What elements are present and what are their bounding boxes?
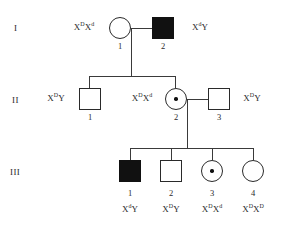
individual-iii-2-id: 2: [161, 188, 181, 198]
sibship-drop-ii-1: [89, 76, 90, 88]
pedigree-chart: I II III 1 2 XDXd XdY 1 2 3 XDY XDXd XDY…: [0, 0, 287, 227]
sibship-drop-iii-4: [253, 148, 254, 160]
individual-ii-1-genotype: XDY: [36, 93, 76, 103]
individual-iii-3-id: 3: [202, 188, 222, 198]
individual-iii-3-symbol[interactable]: [201, 160, 223, 182]
individual-iii-1-id: 1: [120, 188, 140, 198]
mating-line-gen2: [187, 99, 208, 100]
mating-line-gen1: [131, 28, 152, 29]
individual-i-1-symbol[interactable]: [109, 17, 131, 39]
sibship-drop-iii-2: [171, 148, 172, 160]
individual-ii-3-id: 3: [209, 112, 229, 122]
individual-ii-2-symbol[interactable]: [165, 88, 187, 110]
descent-line-gen2: [187, 99, 188, 148]
individual-i-2-symbol[interactable]: [152, 17, 174, 39]
descent-line-gen1: [131, 28, 132, 76]
sibship-bar-gen2: [89, 76, 175, 77]
individual-ii-3-symbol[interactable]: [208, 88, 230, 110]
individual-i-1-genotype: XDXd: [62, 22, 106, 32]
individual-iii-2-symbol[interactable]: [160, 160, 182, 182]
sibship-drop-ii-2: [175, 76, 176, 88]
generation-label-ii: II: [12, 95, 19, 105]
sibship-bar-gen3: [130, 148, 253, 149]
individual-iii-4-genotype: XDXD: [229, 204, 277, 214]
individual-iii-2-genotype: XDY: [149, 204, 193, 214]
individual-iii-4-symbol[interactable]: [242, 160, 264, 182]
individual-ii-1-id: 1: [80, 112, 100, 122]
individual-ii-1-symbol[interactable]: [79, 88, 101, 110]
individual-iii-4-id: 4: [243, 188, 263, 198]
individual-iii-1-genotype: XdY: [108, 204, 152, 214]
individual-i-2-genotype: XdY: [178, 22, 222, 32]
individual-ii-2-genotype: XDXd: [120, 93, 164, 103]
generation-label-i: I: [14, 23, 17, 33]
individual-ii-3-genotype: XDY: [232, 93, 272, 103]
sibship-drop-iii-3: [212, 148, 213, 160]
generation-label-iii: III: [10, 167, 20, 177]
individual-i-2-id: 2: [153, 41, 173, 51]
individual-ii-2-id: 2: [166, 112, 186, 122]
individual-iii-1-symbol[interactable]: [119, 160, 141, 182]
sibship-drop-iii-1: [130, 148, 131, 160]
individual-i-1-id: 1: [110, 41, 130, 51]
